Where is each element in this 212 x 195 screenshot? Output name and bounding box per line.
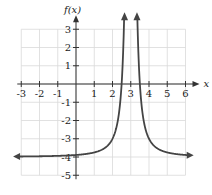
x-tick-label: -2 — [35, 88, 45, 99]
curve-arrow-up-left-icon — [121, 12, 128, 20]
x-tick-label: 1 — [91, 88, 97, 99]
y-tick-label: -3 — [61, 133, 71, 144]
x-tick-label: 4 — [146, 88, 152, 99]
y-axis-arrow-icon — [73, 15, 79, 22]
y-tick-label: 1 — [65, 60, 71, 71]
grid — [21, 29, 185, 175]
y-tick-label: -5 — [61, 170, 71, 181]
x-tick-label: -3 — [16, 88, 26, 99]
y-tick-label: -4 — [61, 152, 71, 163]
curve-arrow-left-icon — [13, 153, 20, 160]
curves — [13, 12, 194, 160]
y-tick-label: -2 — [61, 115, 71, 126]
y-tick-label: 2 — [65, 42, 71, 53]
curve-right-branch — [137, 16, 189, 155]
y-tick-label: 3 — [65, 24, 71, 35]
y-axis-label: f(x) — [63, 4, 81, 15]
x-axis-label: x — [204, 78, 210, 89]
y-tick-label: -1 — [61, 97, 71, 108]
curve-arrow-right-icon — [187, 152, 194, 159]
x-tick-label: 3 — [128, 88, 134, 99]
x-tick-label: 6 — [182, 88, 188, 99]
curve-arrow-up-right-icon — [133, 12, 140, 20]
x-tick-label: 5 — [164, 88, 170, 99]
chart: -3-2-1123456321-1-2-3-4-5 f(x) x — [0, 0, 212, 195]
x-axis-arrow-icon — [193, 81, 200, 87]
x-tick-label: 2 — [109, 88, 115, 99]
